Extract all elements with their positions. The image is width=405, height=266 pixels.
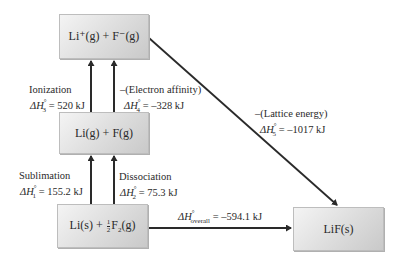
node-product-label: LiF(s) xyxy=(324,222,354,237)
label-overall: ΔH°overall = –594.1 kJ xyxy=(178,207,262,227)
half-fraction: 12 xyxy=(107,219,111,234)
label-sublimation: Sublimation ΔH°1 = 155.2 kJ xyxy=(19,170,83,202)
label-dissociation: Dissociation ΔH°2 = 75.3 kJ xyxy=(119,171,178,203)
node-elements: Li(s) + 12F2(g) xyxy=(57,204,148,248)
node-ions: Li⁺(g) + F⁻(g) xyxy=(59,14,149,59)
node-ions-label: Li⁺(g) + F⁻(g) xyxy=(69,29,140,44)
node-gaseous-atoms: Li(g) + F(g) xyxy=(59,112,149,154)
label-electron-affinity: –(Electron affinity) ΔH°4 = –328 kJ xyxy=(120,84,201,116)
node-product: LiF(s) xyxy=(293,207,384,251)
node-elements-label: Li(s) + 12F2(g) xyxy=(70,218,136,234)
label-lattice-energy: –(Lattice energy) ΔH°5 = –1017 kJ xyxy=(255,108,327,140)
label-ionization: Ionization ΔH°3 = 520 kJ xyxy=(29,84,85,116)
node-gaseous-atoms-label: Li(g) + F(g) xyxy=(75,126,133,141)
